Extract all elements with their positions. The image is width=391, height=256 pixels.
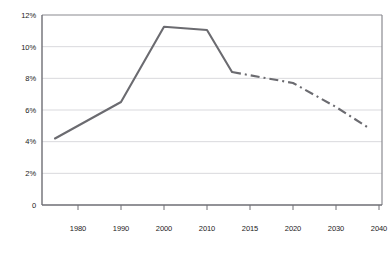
- series-historical-line: [55, 27, 232, 139]
- y-tick-label-12: 12%: [6, 11, 36, 20]
- x-tick-label-2020: 2020: [273, 224, 313, 233]
- series-projection-line: [232, 72, 368, 128]
- y-tick-label-4: 4%: [6, 137, 36, 146]
- x-tick-label-2030: 2030: [316, 224, 356, 233]
- x-tick-label-2000: 2000: [144, 224, 184, 233]
- x-tick-label-1980: 1980: [58, 224, 98, 233]
- y-tick-label-0: 0: [6, 201, 36, 210]
- y-tick-label-6: 6%: [6, 106, 36, 115]
- x-tick-label-1990: 1990: [101, 224, 141, 233]
- x-axis: [42, 205, 382, 210]
- line-chart-plot: [0, 0, 391, 256]
- y-tick-label-10: 10%: [6, 43, 36, 52]
- chart-container: 12% 10% 8% 6% 4% 2% 0 1980 1990 2000 201…: [0, 0, 391, 256]
- x-tick-label-2040: 2040: [359, 224, 391, 233]
- y-tick-label-2: 2%: [6, 169, 36, 178]
- grid-lines: [42, 47, 382, 174]
- x-tick-label-2010: 2010: [187, 224, 227, 233]
- x-tick-label-2015: 2015: [230, 224, 270, 233]
- y-tick-label-8: 8%: [6, 74, 36, 83]
